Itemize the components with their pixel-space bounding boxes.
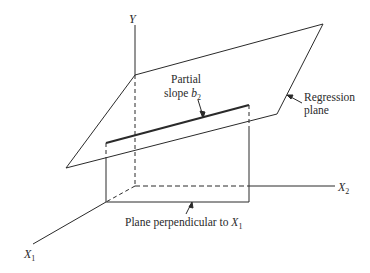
partial-slope-label-line1: Partial [171, 73, 201, 85]
x1-axis [33, 202, 106, 244]
perp-plane-arrowhead [189, 202, 193, 208]
perp-plane-label: Plane perpendicular to X1 [125, 216, 242, 231]
x2-axis-label: X2 [337, 180, 349, 196]
partial-slope-label-line2: slope b2 [164, 87, 201, 102]
x1-axis-hidden [106, 186, 135, 202]
regression-arrowhead [287, 95, 293, 99]
regression-plane-label-line2: plane [304, 104, 329, 117]
x1-axis-label: X1 [23, 247, 35, 263]
y-axis-label: Y [129, 12, 137, 26]
regression-plane-diagram: Y X1 X2 Partial slope b2 Regression plan… [0, 0, 370, 273]
regression-plane-label-line1: Regression [304, 91, 355, 104]
partial-slope-line [106, 105, 249, 143]
